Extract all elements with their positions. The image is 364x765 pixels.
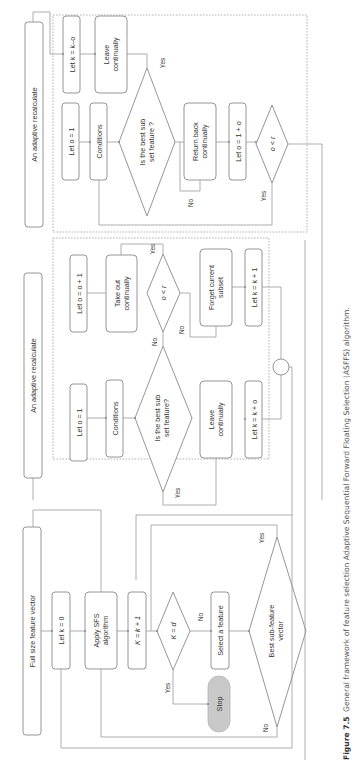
- middle-k-plus-one-box: Let k = k + 1: [245, 249, 262, 326]
- middle-forget-box: Forget current subset: [200, 249, 232, 326]
- middle-conditions-box: Conditions: [106, 380, 123, 457]
- svg-text:Conditions: Conditions: [111, 401, 120, 435]
- svg-text:Take out: Take out: [113, 280, 122, 307]
- svg-text:Best sub-feature: Best sub-feature: [267, 605, 276, 658]
- select-feature-box: Select a feature: [211, 592, 229, 669]
- svg-text:Is the best sub: Is the best sub: [153, 395, 162, 442]
- middle-lane-label: An adaptive recalculate: [29, 338, 38, 413]
- stop-terminal: Stop: [208, 676, 230, 732]
- middle-take-out-box: Take out continually: [106, 255, 137, 332]
- svg-text:Yes: Yes: [164, 683, 171, 693]
- caption-text: General framework of feature selection A…: [342, 307, 351, 712]
- svg-text:o < r: o < r: [268, 136, 277, 151]
- main-connectors: [33, 478, 292, 748]
- top-loop-diamond: o < r: [256, 105, 288, 183]
- svg-text:subset: subset: [216, 277, 225, 298]
- svg-text:Apply SFS: Apply SFS: [92, 613, 101, 647]
- svg-text:continually: continually: [122, 276, 131, 310]
- top-lane-label: An adaptive recalculate: [30, 87, 39, 162]
- svg-text:Forget current: Forget current: [207, 265, 216, 310]
- svg-text:Let o = 1: Let o = 1: [67, 127, 76, 155]
- top-conditions-box: Conditions: [90, 103, 107, 180]
- main-flow: Full size feature vector Let k = 0 Apply…: [23, 478, 306, 748]
- main-lane-label: Full size feature vector: [28, 594, 37, 667]
- svg-text:Conditions: Conditions: [95, 124, 104, 158]
- middle-panel: An adaptive recalculate Let o = o + 1 Ta…: [24, 238, 292, 580]
- svg-text:Yes: Yes: [159, 58, 166, 68]
- svg-text:Let o = 1 + o: Let o = 1 + o: [234, 121, 243, 161]
- svg-text:continually: continually: [111, 37, 120, 71]
- top-leave-box: Leave continually: [95, 16, 127, 93]
- middle-decision-diamond: Is the best sub set feature?: [135, 346, 192, 492]
- svg-text:continually: continually: [216, 402, 225, 436]
- top-k-update-box: Let k = k–o: [63, 16, 80, 93]
- svg-text:vector: vector: [276, 621, 285, 641]
- top-lane-bar: An adaptive recalculate: [25, 22, 43, 227]
- svg-text:Yes: Yes: [258, 533, 265, 543]
- svg-text:set feature?: set feature?: [162, 399, 171, 437]
- middle-o-update-box: Let o = o + 1: [70, 255, 87, 332]
- apply-sfs-box: Apply SFS algorithm: [85, 592, 117, 669]
- svg-text:Yes: Yes: [149, 244, 156, 254]
- svg-text:set feature ?: set feature ?: [147, 122, 156, 162]
- middle-leave-box: Leave continually: [200, 381, 232, 458]
- middle-init-box: Let o = 1: [70, 384, 87, 461]
- main-lane-bar: Full size feature vector: [23, 527, 41, 735]
- top-init-box: Let o = 1: [62, 103, 79, 180]
- svg-text:Let o = 1: Let o = 1: [75, 408, 84, 436]
- svg-text:Select a feature: Select a feature: [216, 605, 225, 655]
- top-decision-diamond: Is the best sub set feature ?: [119, 68, 175, 216]
- top-return-back-box: Return back continually: [184, 103, 216, 180]
- svg-text:Let k = 0: Let k = 0: [57, 617, 66, 645]
- caption-label: Figure 7.5: [342, 716, 351, 760]
- svg-text:Let o = o + 1: Let o = o + 1: [75, 273, 84, 313]
- svg-text:Let k = k + o: Let k = k + o: [250, 400, 259, 440]
- middle-k-update-box: Let k = k + o: [245, 381, 262, 458]
- svg-text:No: No: [197, 612, 204, 621]
- svg-text:Yes: Yes: [174, 488, 181, 498]
- svg-text:Leave: Leave: [102, 45, 111, 65]
- top-o-update-box: Let o = 1 + o: [229, 103, 246, 180]
- svg-text:algorithm: algorithm: [101, 616, 110, 646]
- svg-text:Is the best sub: Is the best sub: [138, 119, 147, 166]
- merge-junction: [273, 359, 289, 375]
- svg-text:continually: continually: [200, 124, 209, 158]
- init-k-box: Let k = 0: [52, 592, 70, 669]
- svg-text:K = k + 1: K = k + 1: [133, 616, 142, 645]
- svg-text:Return back: Return back: [191, 122, 200, 161]
- best-subfeature-diamond: Best sub-feature vector: [249, 537, 306, 727]
- svg-text:Yes: Yes: [260, 191, 267, 201]
- svg-text:No: No: [178, 325, 185, 334]
- svg-text:K = d: K = d: [169, 622, 178, 640]
- asffs-flowchart: An adaptive recalculate Let k = k–o Leav…: [0, 0, 364, 765]
- svg-text:Let k = k–o: Let k = k–o: [68, 37, 77, 72]
- middle-loop-diamond: o < r: [147, 254, 180, 332]
- svg-text:Stop: Stop: [215, 697, 224, 712]
- svg-text:No: No: [151, 337, 158, 346]
- k-equals-d-diamond: K = d: [157, 592, 190, 670]
- middle-lane-bar: An adaptive recalculate: [24, 273, 42, 478]
- svg-text:Let k = k + 1: Let k = k + 1: [250, 268, 259, 308]
- figure-caption: Figure 7.5 General framework of feature …: [342, 307, 351, 760]
- increment-k-box: K = k + 1: [128, 592, 146, 669]
- svg-text:No: No: [262, 723, 269, 732]
- svg-text:o < r: o < r: [159, 285, 168, 300]
- svg-text:No: No: [187, 198, 194, 207]
- svg-text:Leave: Leave: [207, 410, 216, 430]
